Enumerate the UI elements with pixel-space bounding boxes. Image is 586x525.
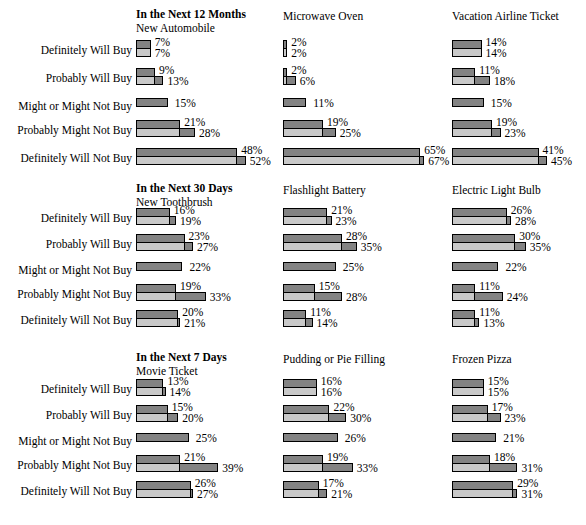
bar-value-label: 23% — [336, 216, 357, 227]
bar-bottom-light — [283, 387, 317, 396]
bar-value-label: 31% — [521, 489, 542, 500]
bar-value-label: 14% — [317, 318, 338, 329]
bar-bottom-extension — [179, 128, 195, 137]
purchase-intention-chart: Definitely Will BuyProbably Will BuyMigh… — [0, 0, 586, 525]
bar-value-label: 30% — [350, 413, 371, 424]
bar-bottom-extension — [175, 292, 206, 301]
bar-bottom-extension — [487, 413, 501, 422]
bar-value-label: 45% — [551, 156, 572, 167]
row-label-probably-will-buy: Probably Will Buy — [0, 72, 134, 84]
bar-bottom-extension — [491, 128, 500, 137]
bar-group: 15%15% — [452, 379, 586, 399]
bar-top-dark — [283, 262, 336, 271]
bar-group: 11%13% — [452, 310, 586, 330]
row-label-definitely-will-not-buy: Definitely Will Not Buy — [0, 314, 134, 326]
section-heading: In the Next 12 Months — [136, 8, 246, 20]
bar-bottom-extension — [162, 387, 165, 396]
bar-bottom-extension — [190, 489, 193, 498]
product-title-frozen-pizza: Frozen Pizza — [452, 353, 512, 365]
bar-bottom-extension — [305, 318, 312, 327]
bar-bottom-extension — [169, 216, 176, 225]
row-label-might-or-might-not-buy: Might or Might Not Buy — [0, 100, 134, 112]
product-title-microwave-oven: Microwave Oven — [283, 10, 363, 22]
bar-bottom-extension — [341, 242, 357, 251]
bar-bottom-extension — [506, 216, 511, 225]
bar-bottom-extension — [474, 76, 490, 85]
row-label-probably-might-not-buy: Probably Might Not Buy — [0, 124, 134, 136]
bar-value-label: 11% — [479, 281, 500, 292]
row-label-probably-might-not-buy: Probably Might Not Buy — [0, 459, 134, 471]
bar-value-label: 21% — [503, 433, 524, 444]
bar-value-label: 15% — [491, 98, 512, 109]
bar-value-label: 14% — [486, 48, 507, 59]
bar-group: 41%45% — [452, 148, 586, 168]
bar-value-label: 13% — [167, 76, 188, 87]
bar-bottom-light — [136, 318, 180, 327]
bar-bottom-extension — [322, 128, 336, 137]
bar-bottom-light — [136, 489, 193, 498]
row-label-definitely-will-not-buy: Definitely Will Not Buy — [0, 152, 134, 164]
bar-bottom-light — [452, 489, 517, 498]
bar-value-label: 22% — [189, 262, 210, 273]
bar-value-label: 21% — [184, 452, 205, 463]
bar-bottom-extension — [318, 489, 327, 498]
bar-value-label: 20% — [182, 413, 203, 424]
bar-bottom-extension — [286, 76, 295, 85]
bar-group: 21% — [452, 431, 586, 451]
bar-value-label: 18% — [494, 76, 515, 87]
bar-value-label: 25% — [340, 128, 361, 139]
bar-group: 11%24% — [452, 284, 586, 304]
product-title-new-automobile: New Automobile — [136, 22, 215, 34]
bar-value-label: 21% — [331, 489, 352, 500]
bar-bottom-extension — [314, 292, 342, 301]
bar-value-label: 35% — [361, 242, 382, 253]
bar-top-dark — [136, 433, 189, 442]
bar-bottom-extension — [326, 216, 331, 225]
bar-value-label: 27% — [197, 242, 218, 253]
bar-group: 14%14% — [452, 40, 586, 60]
bar-value-label: 28% — [346, 292, 367, 303]
bar-bottom-light — [283, 216, 332, 225]
bar-group: 26%28% — [452, 208, 586, 228]
bar-value-label: 13% — [483, 318, 504, 329]
bar-value-label: 22% — [505, 262, 526, 273]
bar-bottom-light — [136, 156, 246, 165]
bar-value-label: 21% — [184, 318, 205, 329]
bar-top-dark — [136, 98, 168, 107]
bar-value-label: 23% — [505, 413, 526, 424]
bar-value-label: 19% — [180, 216, 201, 227]
section-heading: In the Next 7 Days — [136, 351, 227, 363]
bar-bottom-light — [283, 156, 424, 165]
bar-bottom-extension — [322, 463, 353, 472]
bar-group: 22% — [452, 260, 586, 280]
bar-bottom-extension — [514, 242, 526, 251]
bar-bottom-extension — [489, 463, 517, 472]
bar-value-label: 33% — [210, 292, 231, 303]
bar-top-dark — [452, 262, 498, 271]
bar-value-label: 18% — [494, 452, 515, 463]
bar-bottom-extension — [167, 413, 179, 422]
bar-value-label: 7% — [155, 48, 170, 59]
bar-value-label: 23% — [505, 128, 526, 139]
bar-value-label: 27% — [197, 489, 218, 500]
bar-value-label: 6% — [300, 76, 315, 87]
bar-value-label: 31% — [521, 463, 542, 474]
product-title-electric-light-bulb: Electric Light Bulb — [452, 184, 541, 196]
bar-bottom-extension — [236, 156, 245, 165]
bar-bottom-extension — [512, 489, 517, 498]
bar-value-label: 11% — [313, 98, 334, 109]
bar-bottom-light — [452, 387, 484, 396]
bar-value-label: 15% — [319, 281, 340, 292]
bar-group: 18%31% — [452, 455, 586, 475]
bar-value-label: 67% — [428, 156, 449, 167]
bar-bottom-extension — [328, 413, 346, 422]
bar-value-label: 2% — [291, 48, 306, 59]
bar-value-label: 25% — [343, 262, 364, 273]
row-label-probably-will-buy: Probably Will Buy — [0, 409, 134, 421]
row-label-might-or-might-not-buy: Might or Might Not Buy — [0, 264, 134, 276]
section-heading: In the Next 30 Days — [136, 182, 232, 194]
bar-bottom-extension — [538, 156, 547, 165]
bar-value-label: 15% — [488, 387, 509, 398]
bar-group: 15% — [452, 96, 586, 116]
bar-value-label: 19% — [180, 281, 201, 292]
